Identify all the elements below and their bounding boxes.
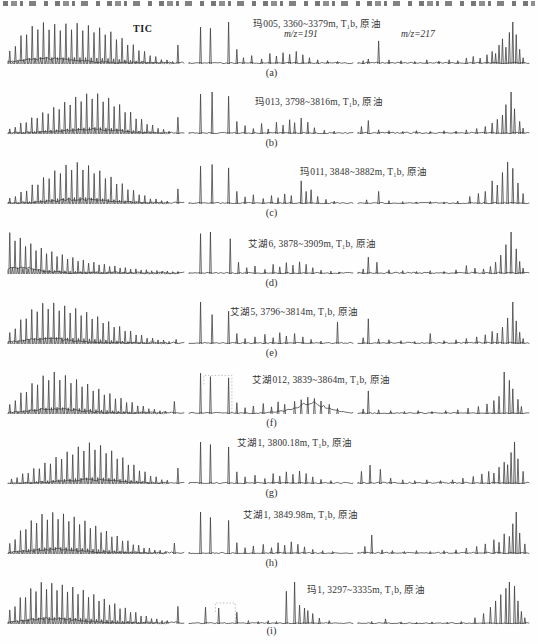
chromatogram-row-c: 玛011, 3848~3882m, T₁b, 原油 (c) <box>0 152 538 222</box>
chromatogram-row-b: 玛013, 3798~3816m, T₁b, 原油 (b) <box>0 82 538 152</box>
mz217-trace-label: m/z=217 <box>401 29 435 39</box>
row-caption: (b) <box>189 137 354 148</box>
chromatogram-row-d: 艾湖6, 3878~3909m, T₁b, 原油 (d) <box>0 222 538 292</box>
tic-trace <box>8 160 185 206</box>
sample-label: 艾湖1, 3849.98m, T₁b, 原油 <box>243 507 358 521</box>
row-caption: (e) <box>189 347 354 358</box>
tic-trace <box>8 580 185 626</box>
sample-label: 玛011, 3848~3882m, T₁b, 原油 <box>300 164 427 178</box>
sample-label: 艾湖1, 3800.18m, T₁b, 原油 <box>237 435 352 449</box>
sample-label: 艾湖012, 3839~3864m, T₁b, 原油 <box>252 372 390 386</box>
mz217-trace <box>358 230 530 276</box>
row-caption: (i) <box>189 625 354 636</box>
tic-trace <box>8 370 185 416</box>
chromatogram-row-a: TIC m/z=191 m/z=217 玛005, 3360~3379m, T₁… <box>0 12 538 82</box>
mz191-trace-label: m/z=191 <box>284 29 318 39</box>
tic-trace <box>8 510 185 556</box>
tic-trace <box>8 300 185 346</box>
row-caption: (d) <box>189 277 354 288</box>
sample-label: 玛005, 3360~3379m, T₁b, 原油 <box>253 16 381 30</box>
row-caption: (f) <box>189 417 354 428</box>
tic-trace-label: TIC <box>133 23 153 34</box>
chromatogram-row-h: 艾湖1, 3849.98m, T₁b, 原油 (h) <box>0 502 538 572</box>
tic-trace <box>8 90 185 136</box>
tic-trace <box>8 20 185 66</box>
mz217-trace <box>358 440 530 486</box>
tic-trace <box>8 230 185 276</box>
cropped-text-line <box>3 1 535 6</box>
tic-trace <box>8 440 185 486</box>
chromatogram-row-i: 玛1, 3297~3335m, T₁b, 原油 (i) <box>0 572 538 642</box>
chromatogram-row-f: 艾湖012, 3839~3864m, T₁b, 原油 (f) <box>0 362 538 432</box>
sample-label: 玛1, 3297~3335m, T₁b, 原油 <box>307 582 425 596</box>
sample-label: 艾湖6, 3878~3909m, T₁b, 原油 <box>248 236 376 250</box>
chromatogram-row-g: 艾湖1, 3800.18m, T₁b, 原油 (g) <box>0 432 538 502</box>
mz217-trace <box>358 90 530 136</box>
figure-page: TIC m/z=191 m/z=217 玛005, 3360~3379m, T₁… <box>0 0 538 644</box>
mz217-trace <box>358 510 530 556</box>
mz217-trace <box>358 20 530 66</box>
row-caption: (h) <box>189 557 354 568</box>
row-caption: (c) <box>189 207 354 218</box>
sample-label: 艾湖5, 3796~3814m, T₁b, 原油 <box>230 304 358 318</box>
mz217-trace <box>358 300 530 346</box>
chromatogram-row-e: 艾湖5, 3796~3814m, T₁b, 原油 (e) <box>0 292 538 362</box>
row-caption: (a) <box>189 67 354 78</box>
sample-label: 玛013, 3798~3816m, T₁b, 原油 <box>255 94 383 108</box>
row-caption: (g) <box>189 487 354 498</box>
